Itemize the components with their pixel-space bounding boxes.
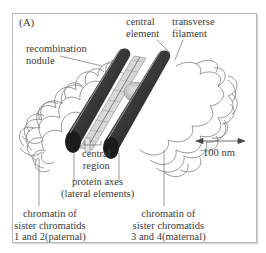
- label-transverse-filament: transverse filament: [172, 16, 215, 39]
- label-line: central: [82, 148, 111, 160]
- label-central-region: central region: [82, 148, 111, 171]
- label-line: protein axes: [61, 176, 134, 188]
- label-line: 3 and 4(maternal): [131, 231, 206, 243]
- label-recombination-nodule: recombination nodule: [26, 43, 87, 66]
- label-central-element: central element: [126, 16, 159, 39]
- label-line: central: [126, 16, 159, 28]
- panel-label: (A): [19, 17, 34, 29]
- label-line: region: [82, 160, 111, 172]
- label-line: transverse: [172, 16, 215, 28]
- label-line: element: [126, 28, 159, 40]
- scale-bar-label: 100 nm: [203, 147, 235, 159]
- label-line: (lateral elements): [61, 188, 134, 200]
- label-chromatin-paternal: chromatin of sister chromatids 1 and 2(p…: [14, 208, 86, 243]
- leader-transverse-filament: [175, 40, 183, 60]
- label-line: chromatin of: [131, 208, 206, 220]
- label-line: filament: [172, 28, 215, 40]
- label-line: sister chromatids: [131, 220, 206, 232]
- label-chromatin-maternal: chromatin of sister chromatids 3 and 4(m…: [131, 208, 206, 243]
- label-line: nodule: [26, 55, 87, 67]
- label-line: chromatin of: [14, 208, 86, 220]
- label-line: recombination: [26, 43, 87, 55]
- label-line: 1 and 2(paternal): [14, 231, 86, 243]
- label-line: sister chromatids: [14, 220, 86, 232]
- scale-bar: [196, 139, 245, 144]
- label-protein-axes: protein axes (lateral elements): [61, 176, 134, 199]
